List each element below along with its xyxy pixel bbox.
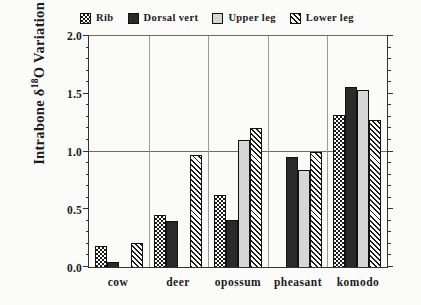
bar-opossum-dorsal-vert — [226, 220, 238, 267]
legend-swatch-upper-leg — [212, 13, 223, 24]
major-tick — [387, 208, 393, 209]
bar-slot — [357, 36, 369, 267]
bar-deer-rib — [154, 215, 166, 267]
bar-slot — [119, 36, 131, 267]
minor-tick — [387, 174, 391, 175]
legend-swatch-rib — [80, 13, 91, 24]
minor-tick — [387, 220, 391, 221]
bar-opossum-upper-leg — [238, 140, 250, 267]
bar-slot — [178, 36, 190, 267]
major-tick — [387, 35, 393, 36]
minor-tick — [387, 116, 391, 117]
legend-swatch-dorsal-vert — [128, 13, 139, 24]
minor-tick — [387, 254, 391, 255]
minor-tick — [387, 162, 391, 163]
legend-label-lower-leg: Lower leg — [306, 13, 354, 24]
minor-tick — [387, 197, 391, 198]
chart-legend: Rib Dorsal vert Upper leg Lower leg — [80, 8, 410, 28]
bar-group-komodo — [327, 36, 387, 267]
bar-chart-figure: Rib Dorsal vert Upper leg Lower leg Intr… — [0, 0, 421, 305]
legend-item-upper-leg: Upper leg — [212, 13, 275, 24]
major-tick — [387, 151, 393, 152]
minor-tick — [387, 139, 391, 140]
bar-komodo-dorsal-vert — [345, 87, 357, 267]
minor-tick — [387, 70, 391, 71]
bar-slot — [345, 36, 357, 267]
bar-group-pheasant — [268, 36, 328, 267]
y-axis-tick-label: 1.5 — [48, 88, 82, 100]
minor-tick — [387, 58, 391, 59]
legend-swatch-lower-leg — [290, 13, 301, 24]
bar-cow-rib — [95, 246, 107, 267]
bar-pheasant-dorsal-vert — [286, 157, 298, 267]
bar-slot — [214, 36, 226, 267]
x-axis-tick-labels: cowdeeropossumpheasantkomodo — [88, 276, 388, 288]
y-axis-tick-labels: 0.00.51.01.52.0 — [44, 36, 82, 268]
bar-slot — [333, 36, 345, 267]
bar-slot — [274, 36, 286, 267]
bar-slot — [131, 36, 143, 267]
legend-item-dorsal-vert: Dorsal vert — [128, 13, 199, 24]
legend-item-lower-leg: Lower leg — [290, 13, 354, 24]
y-axis-tick-label: 1.0 — [48, 146, 82, 158]
legend-item-rib: Rib — [80, 13, 114, 24]
x-axis-tick-label: komodo — [328, 276, 388, 288]
x-axis-tick-label: deer — [148, 276, 208, 288]
minor-tick — [387, 185, 391, 186]
major-tick — [387, 93, 393, 94]
bar-deer-lower-leg — [190, 155, 202, 267]
bar-slot — [310, 36, 322, 267]
bar-pheasant-lower-leg — [310, 152, 322, 268]
bar-cow-dorsal-vert — [107, 262, 119, 267]
minor-tick — [387, 81, 391, 82]
y-axis-tick-label: 0.5 — [48, 204, 82, 216]
bar-opossum-rib — [214, 195, 226, 267]
bar-cow-lower-leg — [131, 243, 143, 267]
y-axis-tick-label: 2.0 — [48, 30, 82, 42]
x-axis-tick-label: opossum — [208, 276, 268, 288]
bar-opossum-lower-leg — [250, 128, 262, 267]
legend-label-dorsal-vert: Dorsal vert — [144, 13, 199, 24]
bar-groups — [89, 36, 387, 267]
bar-komodo-lower-leg — [369, 120, 381, 267]
major-tick — [387, 266, 393, 267]
bar-slot — [190, 36, 202, 267]
minor-tick — [387, 47, 391, 48]
bar-group-cow — [89, 36, 149, 267]
minor-tick — [387, 104, 391, 105]
bar-slot — [238, 36, 250, 267]
bar-slot — [166, 36, 178, 267]
bar-slot — [298, 36, 310, 267]
bar-komodo-rib — [333, 115, 345, 267]
bar-komodo-upper-leg — [357, 90, 369, 267]
plot-inner — [89, 36, 387, 267]
bar-slot — [107, 36, 119, 267]
bar-group-opossum — [208, 36, 268, 267]
legend-label-rib: Rib — [96, 13, 114, 24]
minor-tick — [387, 231, 391, 232]
minor-tick — [387, 127, 391, 128]
bar-slot — [154, 36, 166, 267]
bar-deer-dorsal-vert — [166, 221, 178, 267]
y-axis-tick-label: 0.0 — [48, 262, 82, 274]
y-axis-title-superscript: 18 — [30, 78, 40, 88]
bar-slot — [95, 36, 107, 267]
legend-label-upper-leg: Upper leg — [228, 13, 275, 24]
plot-area — [88, 36, 388, 268]
bar-pheasant-upper-leg — [298, 170, 310, 267]
bar-slot — [250, 36, 262, 267]
bar-slot — [286, 36, 298, 267]
bar-slot — [369, 36, 381, 267]
minor-tick — [387, 243, 391, 244]
x-axis-tick-label: pheasant — [268, 276, 328, 288]
x-axis-tick-label: cow — [88, 276, 148, 288]
bar-slot — [226, 36, 238, 267]
bar-group-deer — [149, 36, 209, 267]
